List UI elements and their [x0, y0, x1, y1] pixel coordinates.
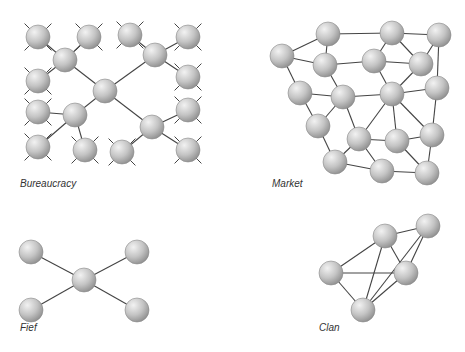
- node-sphere: [176, 138, 200, 162]
- node-sphere: [110, 140, 134, 164]
- node-sphere: [347, 127, 371, 151]
- market-network: [270, 21, 451, 185]
- node-sphere: [380, 82, 404, 106]
- node-sphere: [415, 161, 439, 185]
- organizational-forms-diagram: [0, 0, 465, 352]
- node-sphere: [176, 98, 200, 122]
- node-sphere: [53, 48, 77, 72]
- node-sphere: [427, 23, 451, 47]
- node-sphere: [270, 44, 294, 68]
- node-sphere: [385, 129, 409, 153]
- node-sphere: [370, 159, 394, 183]
- node-sphere: [331, 85, 355, 109]
- node-sphere: [313, 53, 337, 77]
- fief-network: [19, 240, 149, 322]
- node-sphere: [19, 298, 43, 322]
- node-sphere: [176, 65, 200, 89]
- node-sphere: [143, 43, 167, 67]
- node-sphere: [72, 268, 96, 292]
- node-sphere: [288, 81, 312, 105]
- node-sphere: [373, 224, 397, 248]
- node-sphere: [73, 138, 97, 162]
- node-sphere: [26, 25, 50, 49]
- node-sphere: [93, 79, 117, 103]
- node-sphere: [140, 115, 164, 139]
- node-sphere: [316, 22, 340, 46]
- node-sphere: [63, 103, 87, 127]
- bureaucracy-network: [25, 22, 202, 166]
- node-sphere: [362, 49, 386, 73]
- node-sphere: [380, 21, 404, 45]
- node-sphere: [125, 240, 149, 264]
- node-sphere: [351, 298, 375, 322]
- node-sphere: [416, 214, 440, 238]
- fief-label: Fief: [20, 322, 37, 333]
- clan-label: Clan: [319, 322, 340, 333]
- node-sphere: [425, 76, 449, 100]
- node-sphere: [409, 52, 433, 76]
- node-sphere: [77, 25, 101, 49]
- node-sphere: [394, 261, 418, 285]
- node-sphere: [176, 25, 200, 49]
- node-sphere: [319, 261, 343, 285]
- node-sphere: [26, 100, 50, 124]
- node-sphere: [323, 150, 347, 174]
- node-sphere: [420, 123, 444, 147]
- node-sphere: [26, 135, 50, 159]
- market-label: Market: [272, 178, 303, 189]
- node-sphere: [118, 23, 142, 47]
- node-sphere: [125, 298, 149, 322]
- node-sphere: [19, 240, 43, 264]
- node-sphere: [306, 114, 330, 138]
- clan-network: [319, 214, 440, 322]
- bureaucracy-label: Bureaucracy: [20, 178, 76, 189]
- node-sphere: [26, 69, 50, 93]
